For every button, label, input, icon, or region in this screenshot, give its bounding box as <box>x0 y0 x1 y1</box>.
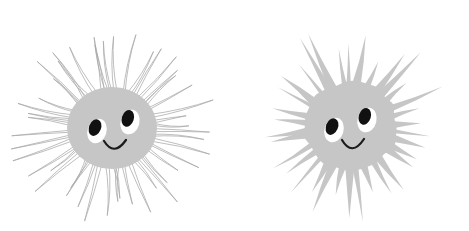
scene-svg <box>0 0 469 231</box>
illustration-canvas <box>0 0 469 231</box>
hairy-spike-character-body <box>67 87 157 169</box>
